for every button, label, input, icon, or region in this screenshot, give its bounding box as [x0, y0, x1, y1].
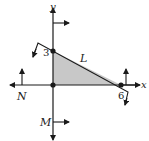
- x-axis-label: x: [141, 79, 147, 90]
- diagram-canvas: y x 3 6 L N M: [0, 0, 149, 141]
- vertex-origin: [50, 82, 55, 87]
- line-L-label: L: [79, 52, 87, 65]
- feasible-region-diagram: y x 3 6 L N M: [0, 0, 149, 141]
- line-M-label: M: [39, 116, 52, 129]
- y-axis-label: y: [49, 1, 56, 12]
- line-N-label: N: [16, 90, 27, 103]
- vertex-y-intercept: [50, 48, 55, 53]
- vertex-x-intercept: [118, 82, 123, 87]
- y-intercept-label: 3: [43, 47, 49, 58]
- line-L-hook-arrow-left: [33, 49, 36, 57]
- x-intercept-label: 6: [118, 90, 124, 101]
